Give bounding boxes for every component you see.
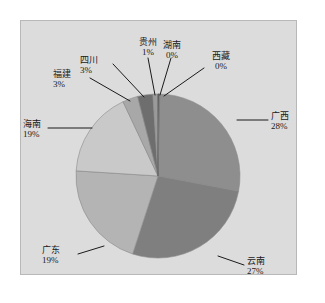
pie-chart-figure: 广西 28% 云南 27% 广东 19% 海南 19% 福建 3% 四川 3% … bbox=[0, 0, 325, 303]
pie-label-sichuan-name: 四川 bbox=[80, 55, 98, 65]
pie-label-xizang: 西藏 0% bbox=[206, 51, 236, 71]
pie-label-hainan-percent: 19% bbox=[23, 129, 41, 139]
pie-label-yunnan-name: 云南 bbox=[247, 256, 265, 266]
pie-label-fujian: 福建 3% bbox=[53, 69, 71, 89]
pie-label-hainan: 海南 19% bbox=[23, 119, 41, 139]
pie-label-guangxi-name: 广西 bbox=[271, 111, 289, 121]
pie-label-sichuan: 四川 3% bbox=[80, 55, 98, 75]
leader-line-guangdong bbox=[78, 246, 104, 254]
pie-label-guangdong-percent: 19% bbox=[42, 255, 60, 265]
pie-label-guangdong-name: 广东 bbox=[42, 245, 60, 255]
pie-label-xizang-percent: 0% bbox=[206, 61, 236, 71]
leader-line-guizhou bbox=[148, 58, 155, 95]
pie-label-yunnan-percent: 27% bbox=[247, 266, 265, 276]
leader-line-fujian bbox=[90, 78, 130, 101]
pie-label-guangxi-percent: 28% bbox=[271, 121, 289, 131]
pie-label-guangxi: 广西 28% bbox=[271, 111, 289, 131]
pie-label-fujian-percent: 3% bbox=[53, 79, 71, 89]
pie-label-yunnan: 云南 27% bbox=[247, 256, 265, 276]
pie-label-fujian-name: 福建 bbox=[53, 69, 71, 79]
leader-line-xizang bbox=[164, 68, 204, 96]
pie-label-sichuan-percent: 3% bbox=[80, 65, 98, 75]
pie-label-guangdong: 广东 19% bbox=[42, 245, 60, 265]
pie-label-hainan-name: 海南 bbox=[23, 119, 41, 129]
pie-slice-guangxi[interactable] bbox=[158, 94, 240, 191]
leader-line-hunan bbox=[160, 58, 171, 95]
pie-label-hunan-name: 湖南 bbox=[157, 40, 187, 50]
pie-label-hunan-percent: 0% bbox=[157, 50, 187, 60]
leader-line-sichuan bbox=[113, 64, 144, 97]
pie-slices bbox=[76, 94, 240, 258]
pie-label-hunan: 湖南 0% bbox=[157, 40, 187, 60]
pie-label-xizang-name: 西藏 bbox=[206, 51, 236, 61]
leader-line-yunnan bbox=[218, 256, 244, 265]
